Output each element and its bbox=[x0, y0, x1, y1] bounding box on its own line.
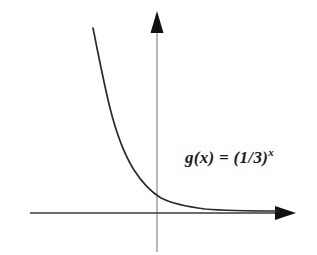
function-label-base: g(x) = (1/3) bbox=[185, 148, 268, 167]
y-axis-arrowhead-icon bbox=[151, 11, 164, 33]
function-graph-figure: g(x) = (1/3)x bbox=[0, 0, 317, 255]
function-label-exponent: x bbox=[268, 146, 274, 158]
exponential-decay-curve bbox=[93, 28, 279, 211]
function-label: g(x) = (1/3)x bbox=[185, 146, 274, 168]
x-axis-arrowhead-icon bbox=[275, 206, 296, 220]
graph-canvas bbox=[0, 0, 317, 255]
